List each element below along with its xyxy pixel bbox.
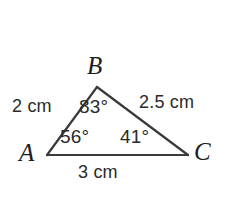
side-length-bc: 2.5 cm xyxy=(139,93,194,111)
side-length-ac: 3 cm xyxy=(78,163,118,181)
angle-measure-c: 41° xyxy=(120,127,149,146)
angle-measure-b: 83° xyxy=(79,97,108,116)
side-length-ab: 2 cm xyxy=(12,97,52,115)
triangle-diagram-canvas: A B C 83° 56° 41° 2 cm 2.5 cm 3 cm xyxy=(0,0,230,202)
vertex-label-a: A xyxy=(19,140,34,165)
vertex-label-b: B xyxy=(87,53,102,78)
vertex-label-c: C xyxy=(194,139,211,164)
angle-measure-a: 56° xyxy=(60,127,89,146)
